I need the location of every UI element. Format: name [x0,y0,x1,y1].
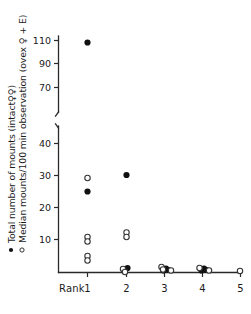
data-point-filled [123,172,129,178]
y-tick-label-40: 40 [39,138,51,149]
y-tick-label-70: 70 [39,82,51,93]
legend-open-circle-icon [20,248,24,252]
x-tick-label-1: 1 [84,283,91,294]
axis-break-upper-mark [56,112,59,116]
data-point-open [160,267,165,272]
x-axis-title: Rank [59,283,85,294]
y-axis-title-group: Total number of mounts (intact♀♀) Median… [6,15,28,252]
x-tick-label-3: 3 [161,283,168,294]
y-axis [56,36,59,273]
data-point-open [197,265,202,270]
data-point-filled [84,188,90,194]
y-axis-ticks-upper: 110 90 70 [33,35,59,93]
data-point-open [85,258,90,263]
y-tick-label-10: 10 [39,234,51,245]
y-axis-title-primary: Total number of mounts (intact♀♀) [6,85,17,244]
x-axis-tick-labels: Rank 1 2 3 4 5 [59,283,244,294]
data-point-open [85,239,90,244]
series-median-mounts-ovex [85,175,243,274]
y-tick-label-20: 20 [39,202,51,213]
scatter-plot-svg: 110 90 70 40 30 20 10 Rank 1 [0,0,251,314]
y-tick-label-110: 110 [33,35,51,46]
x-tick-label-4: 4 [199,283,206,294]
data-point-open [124,234,129,239]
series-total-mounts-intact [84,39,209,273]
y-axis-ticks-lower: 40 30 20 10 [39,138,59,245]
x-tick-label-2: 2 [123,283,130,294]
data-point-open [237,268,242,273]
data-point-open [122,269,127,274]
data-point-open [206,268,211,273]
x-tick-label-5: 5 [237,283,244,294]
data-point-filled [84,39,90,45]
y-tick-label-30: 30 [39,170,51,181]
chart-figure: 110 90 70 40 30 20 10 Rank 1 [0,0,251,314]
legend-filled-circle-icon [9,248,13,252]
x-axis [59,273,241,278]
y-tick-label-90: 90 [39,58,51,69]
data-point-open [168,268,173,273]
data-point-open [85,175,90,180]
y-axis-title-secondary: Median mounts/100 min observation (ovex … [17,15,28,243]
